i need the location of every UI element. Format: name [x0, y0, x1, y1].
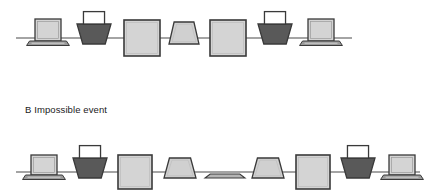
shape-basket-dark: [73, 146, 107, 178]
shape-laptop-open: [27, 19, 70, 46]
shape-square-large: [210, 20, 246, 56]
trapezoid-body: [164, 158, 196, 178]
basket-handle: [347, 146, 368, 158]
basket-body: [77, 24, 111, 44]
square-body: [118, 155, 152, 189]
shape-basket-dark: [258, 12, 292, 44]
shape-trapezoid-flattened: [205, 174, 245, 178]
trapezoid-body: [252, 158, 284, 178]
figure-container: B Impossible event: [0, 0, 427, 194]
laptop-screen: [31, 155, 57, 175]
diagram-canvas: [0, 0, 427, 194]
shape-basket-dark: [341, 146, 375, 178]
shape-trapezoid-light: [169, 22, 199, 44]
shape-laptop-open: [300, 19, 343, 46]
square-body: [296, 155, 330, 189]
laptop-screen: [389, 155, 415, 175]
basket-body: [73, 158, 107, 178]
shape-laptop-open: [23, 155, 66, 180]
trapezoid-body: [169, 22, 199, 44]
shape-laptop-open: [381, 155, 424, 180]
laptop-screen: [308, 19, 334, 41]
row-top-shapes: [16, 12, 352, 56]
basket-handle: [264, 12, 285, 24]
laptop-screen: [35, 19, 61, 41]
basket-handle: [83, 12, 104, 24]
flat-shape-body: [205, 174, 245, 178]
shape-basket-dark: [77, 12, 111, 44]
shape-trapezoid-light: [164, 158, 196, 178]
square-body: [210, 20, 246, 56]
shape-square-large: [124, 20, 160, 56]
row-bottom-shapes: [16, 146, 423, 189]
square-body: [124, 20, 160, 56]
basket-body: [258, 24, 292, 44]
basket-handle: [79, 146, 100, 158]
shape-square-large: [296, 155, 330, 189]
shape-trapezoid-light: [252, 158, 284, 178]
basket-body: [341, 158, 375, 178]
shape-square-large: [118, 155, 152, 189]
